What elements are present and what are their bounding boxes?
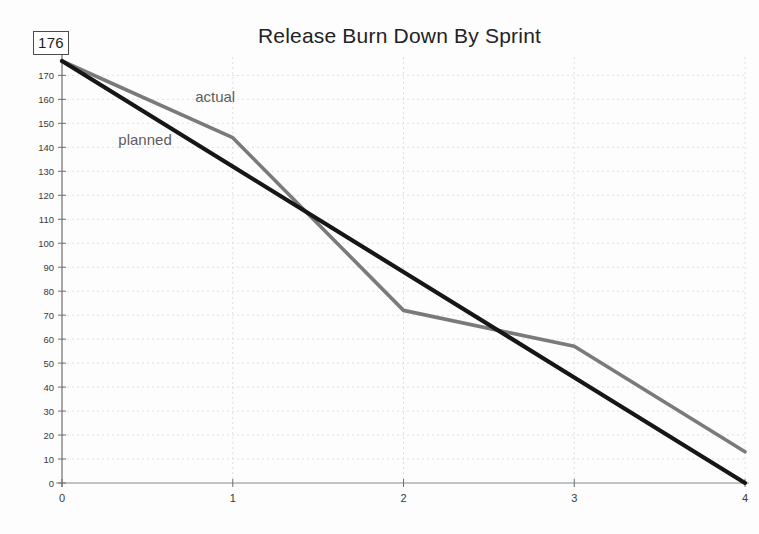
y-tick-label: 10 <box>43 454 54 465</box>
y-tick-label: 130 <box>38 166 54 177</box>
y-tick-label: 50 <box>43 358 54 369</box>
x-tick-label: 2 <box>400 492 406 504</box>
burn-down-chart: Release Burn Down By Sprint 176 01020304… <box>0 0 759 534</box>
y-tick-label: 140 <box>38 142 54 153</box>
y-tick-label: 90 <box>43 262 54 273</box>
y-tick-label: 80 <box>43 286 54 297</box>
series-lines <box>62 61 745 483</box>
plot-area: 0102030405060708090100110120130140150160… <box>0 0 759 534</box>
y-tick-label: 30 <box>43 406 54 417</box>
y-tick-label: 150 <box>38 118 54 129</box>
y-tick-label: 20 <box>43 430 54 441</box>
y-tick-label: 120 <box>38 190 54 201</box>
y-tick-label: 60 <box>43 334 54 345</box>
series-line-planned <box>62 61 745 483</box>
x-tick-label: 1 <box>230 492 236 504</box>
y-tick-label: 40 <box>43 382 54 393</box>
series-annotation-actual: actual <box>195 88 235 105</box>
series-annotation-planned: planned <box>118 131 171 148</box>
y-tick-label: 0 <box>49 478 54 489</box>
series-annotations: actualplanned <box>118 88 235 148</box>
y-tick-label: 110 <box>39 214 54 225</box>
y-tick-label: 70 <box>43 310 54 321</box>
y-tick-label: 100 <box>38 238 54 249</box>
x-tick-label: 0 <box>59 492 65 504</box>
x-tick-label: 4 <box>742 492 748 504</box>
y-tick-label: 160 <box>38 94 54 105</box>
x-tick-label: 3 <box>571 492 577 504</box>
y-tick-label: 170 <box>38 70 54 81</box>
